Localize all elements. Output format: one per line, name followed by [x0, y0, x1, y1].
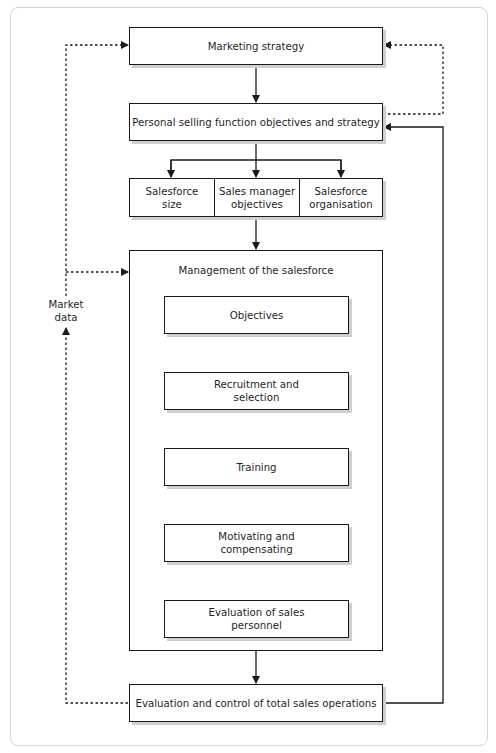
branch-line2: organisation [309, 199, 372, 210]
step-line2: compensating [220, 544, 292, 555]
step-motivating-compensating: Motivating andcompensating [164, 524, 349, 562]
evaluation-control-box: Evaluation and control of total sales op… [129, 684, 383, 722]
branch-line2: size [162, 199, 182, 210]
step-label: Objectives [230, 309, 284, 322]
branch-boxes: Salesforcesize Sales managerobjectives S… [129, 178, 383, 217]
personal-selling-box: Personal selling function objectives and… [129, 103, 383, 141]
sales-manager-objectives-box: Sales managerobjectives [214, 179, 299, 216]
step-line2: personnel [231, 620, 281, 631]
market-data-line2: data [55, 312, 78, 323]
branch-line1: Salesforce [146, 186, 199, 197]
evaluation-control-label: Evaluation and control of total sales op… [136, 697, 377, 710]
salesforce-size-box: Salesforcesize [130, 179, 214, 216]
step-line1: Evaluation of sales [208, 607, 304, 618]
step-line1: Recruitment and [214, 379, 299, 390]
branch-line2: objectives [231, 199, 283, 210]
step-objectives: Objectives [164, 296, 349, 334]
marketing-strategy-label: Marketing strategy [208, 40, 305, 53]
management-title: Management of the salesforce [130, 265, 382, 276]
step-evaluation-of-sales-personnel: Evaluation of salespersonnel [164, 600, 349, 638]
step-line2: selection [234, 392, 280, 403]
step-label: Training [236, 461, 276, 474]
market-data-line1: Market [48, 299, 83, 310]
branch-line1: Sales manager [219, 186, 295, 197]
step-training: Training [164, 448, 349, 486]
marketing-strategy-box: Marketing strategy [129, 27, 383, 65]
step-line1: Motivating and [218, 531, 294, 542]
step-recruitment-selection: Recruitment andselection [164, 372, 349, 410]
personal-selling-label: Personal selling function objectives and… [132, 116, 380, 129]
market-data-label: Marketdata [44, 298, 88, 324]
branch-line1: Salesforce [315, 186, 368, 197]
salesforce-organisation-box: Salesforceorganisation [299, 179, 382, 216]
